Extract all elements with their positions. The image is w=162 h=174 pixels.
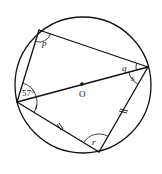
angle-label-q: q <box>122 63 127 73</box>
angle-label-57: 57° <box>22 88 35 98</box>
angle-label-s: s <box>131 73 135 83</box>
angle-arc-q <box>136 63 137 70</box>
center-label: O <box>79 89 86 99</box>
tick-marks-bottom-right <box>119 109 128 113</box>
edge-topleft-right <box>39 30 148 67</box>
angle-arc-r <box>84 134 108 143</box>
center-point <box>80 82 84 86</box>
angle-label-t: t <box>35 101 38 111</box>
geometry-diagram: O p q s 57° t r <box>0 0 162 174</box>
angle-label-p: p <box>41 38 47 48</box>
angle-label-r: r <box>92 137 96 147</box>
